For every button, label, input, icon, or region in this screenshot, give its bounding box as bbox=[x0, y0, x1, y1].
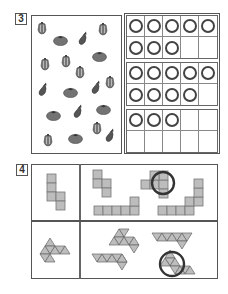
reference-octahedron-net bbox=[40, 238, 70, 262]
octahedron-option-4[interactable] bbox=[160, 250, 195, 276]
cube-option-3[interactable] bbox=[94, 197, 139, 215]
cube-option-2[interactable] bbox=[141, 171, 174, 198]
octahedron-option-2[interactable] bbox=[92, 254, 127, 270]
octahedron-option-1[interactable] bbox=[109, 229, 139, 253]
nets-drawing: .sq { fill: #bdbdbd; stroke: #777; strok… bbox=[0, 0, 228, 294]
octahedron-option-3[interactable] bbox=[152, 233, 192, 249]
reference-cube-net bbox=[47, 174, 65, 210]
cube-option-1[interactable] bbox=[93, 170, 111, 197]
